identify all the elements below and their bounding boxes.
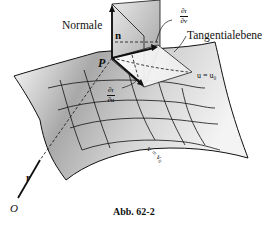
partial-numerator: ∂r <box>107 87 115 96</box>
figure-caption: Abb. 62-2 <box>113 207 155 217</box>
partial-dr-du-label: ∂r ∂u <box>107 87 115 104</box>
partial-dr-dv-label: ∂r ∂v <box>180 8 188 25</box>
tangent-plane-label: Tangentialebene <box>187 30 262 42</box>
u-curve-label: u = u₀ <box>197 72 216 80</box>
position-vector-label: r <box>26 173 30 183</box>
origin-label: O <box>10 203 18 214</box>
normal-label: Normale <box>62 20 102 32</box>
partial-denominator: ∂v <box>180 17 187 25</box>
partial-denominator: ∂u <box>107 96 114 104</box>
partial-numerator: ∂r <box>180 8 188 17</box>
normal-vector-label: n <box>115 30 121 41</box>
point-label: P <box>98 57 105 69</box>
